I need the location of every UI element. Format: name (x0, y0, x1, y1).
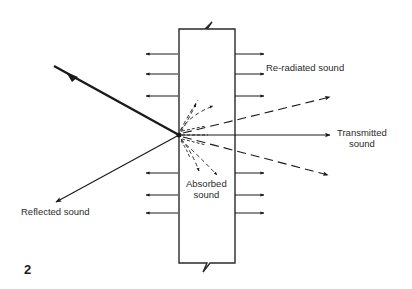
impact-point (177, 133, 182, 138)
transmitted-sound-arrows (179, 97, 330, 175)
figure-number-label: 2 (24, 262, 31, 277)
reflected-sound-label: Reflected sound (21, 206, 90, 217)
reradiated-arrows-right (235, 54, 264, 213)
absorbed-label-line1: Absorbed (186, 178, 227, 189)
incident-sound-arrow (54, 66, 179, 135)
absorbed-sound-label: Absorbed sound (186, 178, 227, 200)
transmitted-label-line2: sound (337, 138, 387, 149)
reradiated-arrows-left (146, 54, 178, 213)
transmitted-sound-label: Transmitted sound (337, 127, 387, 149)
transmitted-label-line1: Transmitted (337, 127, 387, 138)
absorbed-label-line2: sound (186, 189, 227, 200)
reflected-sound-arrow (56, 135, 179, 202)
reradiated-sound-label: Re-radiated sound (266, 62, 344, 73)
